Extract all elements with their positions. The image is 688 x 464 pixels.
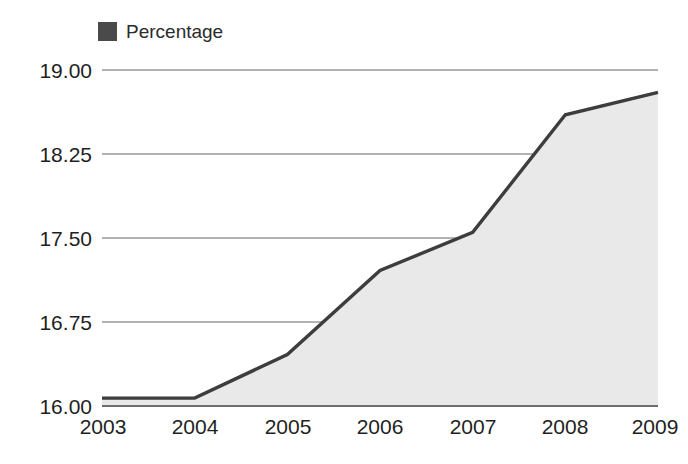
area-chart-svg [102,60,658,410]
legend-item-label: Percentage [126,22,223,41]
x-tick-label: 2006 [357,416,404,437]
y-tick-label: 17.50 [39,228,92,249]
y-tick-label: 16.75 [39,312,92,333]
x-tick-label: 2005 [265,416,312,437]
series-area-fill [102,92,658,406]
x-axis: 2003 2004 2005 2006 2007 2008 2009 [0,416,688,450]
chart-page: Percentage 19.00 18.25 17.50 16.75 16.00… [0,0,688,464]
x-tick-label: 2008 [542,416,589,437]
plot-area [102,60,658,410]
y-tick-label: 16.00 [39,396,92,417]
x-tick-label: 2003 [80,416,127,437]
x-tick-label: 2007 [450,416,497,437]
x-tick-label: 2009 [632,416,679,437]
y-tick-label: 19.00 [39,60,92,81]
x-tick-label: 2004 [172,416,219,437]
square-swatch-icon [98,22,117,41]
y-axis: 19.00 18.25 17.50 16.75 16.00 [0,0,92,464]
chart-legend: Percentage [98,18,223,44]
y-tick-label: 18.25 [39,144,92,165]
